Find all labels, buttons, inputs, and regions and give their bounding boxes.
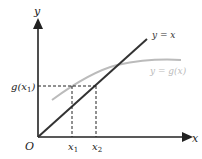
tick-g-x1: g(x1): [11, 81, 35, 94]
tick-x2: x2: [92, 141, 102, 154]
label-y-equals-gx: y = g(x): [149, 66, 187, 76]
x-axis-label: x: [192, 132, 199, 145]
tick-x1: x1: [68, 141, 78, 154]
origin-label: O: [25, 140, 34, 153]
line-y-equals-x: [38, 39, 147, 137]
y-axis-label: y: [33, 5, 41, 18]
fixed-point-diagram: y x O x1 x2 g(x1) y = x y = g(x): [0, 0, 202, 159]
label-y-equals-x: y = x: [151, 30, 175, 40]
y-axis-arrow-icon: [33, 18, 43, 29]
